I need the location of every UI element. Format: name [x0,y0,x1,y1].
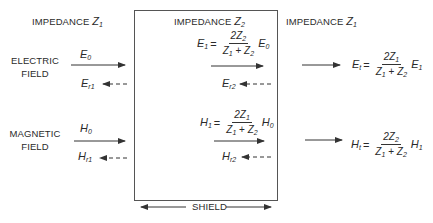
arrows-layer [0,0,433,223]
